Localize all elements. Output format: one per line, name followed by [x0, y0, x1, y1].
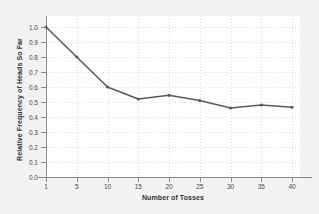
y-axis-tick	[41, 42, 46, 43]
y-axis-line	[46, 16, 47, 178]
gridline-horizontal	[46, 162, 300, 163]
y-axis-tick-label: 0.6	[29, 84, 38, 91]
y-axis-tick-label: 0.9	[29, 39, 38, 46]
gridline-horizontal	[46, 102, 300, 103]
x-axis-tick-label: 5	[67, 183, 87, 190]
x-axis-tick-label: 25	[190, 183, 210, 190]
x-axis-tick-label: 40	[282, 183, 302, 190]
y-axis-tick	[41, 177, 46, 178]
y-axis-tick	[41, 87, 46, 88]
gridline-vertical	[169, 16, 170, 177]
y-axis-tick-label: 0.0	[29, 174, 38, 181]
gridline-horizontal	[46, 57, 300, 58]
gridline-horizontal	[46, 147, 300, 148]
gridline-horizontal	[46, 117, 300, 118]
x-axis-tick	[292, 178, 293, 182]
gridline-vertical	[231, 16, 232, 177]
chart-figure: Relative Frequency of Heads So Far Numbe…	[0, 0, 319, 214]
gridline-vertical	[200, 16, 201, 177]
x-axis-tick-label: 1	[36, 183, 56, 190]
y-axis-tick	[41, 72, 46, 73]
gridline-horizontal	[46, 72, 300, 73]
y-axis-tick	[41, 162, 46, 163]
gridline-horizontal	[46, 87, 300, 88]
gridline-vertical	[138, 16, 139, 177]
gridline-vertical	[292, 16, 293, 177]
x-axis-tick	[231, 178, 232, 182]
gridline-horizontal	[46, 27, 300, 28]
x-axis-tick	[261, 178, 262, 182]
x-axis-tick-label: 30	[221, 183, 241, 190]
y-axis-tick-label: 0.7	[29, 69, 38, 76]
x-axis-tick-label: 15	[128, 183, 148, 190]
gridline-horizontal	[46, 132, 300, 133]
y-axis-tick-label: 0.8	[29, 54, 38, 61]
y-axis-tick	[41, 132, 46, 133]
x-axis-tick	[77, 178, 78, 182]
y-axis-tick-label: 0.1	[29, 159, 38, 166]
y-axis-tick-label: 0.2	[29, 144, 38, 151]
x-axis-tick	[169, 178, 170, 182]
y-axis-tick-label: 0.5	[29, 99, 38, 106]
x-axis-tick-label: 20	[159, 183, 179, 190]
x-axis-tick-label: 10	[98, 183, 118, 190]
x-axis-tick-label: 35	[251, 183, 271, 190]
y-axis-tick	[41, 147, 46, 148]
y-axis-tick	[41, 117, 46, 118]
x-axis-title: Number of Tosses	[46, 194, 300, 201]
y-axis-tick-label: 0.3	[29, 129, 38, 136]
gridline-vertical	[77, 16, 78, 177]
x-axis-line	[38, 177, 312, 178]
gridline-vertical	[261, 16, 262, 177]
gridline-vertical	[108, 16, 109, 177]
x-axis-tick	[200, 178, 201, 182]
gridline-horizontal	[46, 42, 300, 43]
x-axis-tick	[108, 178, 109, 182]
x-axis-tick	[138, 178, 139, 182]
y-axis-tick	[41, 102, 46, 103]
plot-area	[46, 16, 300, 177]
y-axis-tick	[41, 57, 46, 58]
y-axis-title: Relative Frequency of Heads So Far	[16, 20, 23, 180]
y-axis-tick	[41, 27, 46, 28]
x-axis-tick	[46, 178, 47, 182]
y-axis-tick-label: 1.0	[29, 24, 38, 31]
y-axis-tick-label: 0.4	[29, 114, 38, 121]
